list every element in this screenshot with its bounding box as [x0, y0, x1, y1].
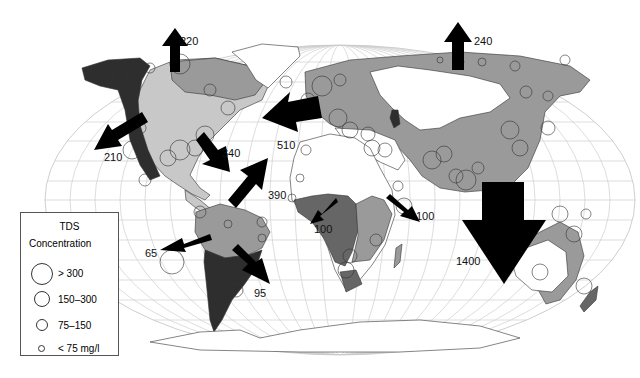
flux-label-indian-africa: 100: [416, 211, 434, 222]
flux-label-pacific-south-america: 65: [145, 248, 157, 259]
flux-label-arctic-eurasia: 240: [474, 36, 492, 47]
flux-label-gulf-of-mexico: 340: [222, 148, 240, 159]
legend-item: < 75 mg/l: [21, 339, 118, 359]
legend-subtitle: Concentration: [29, 238, 91, 249]
legend: TDS Concentration > 300 150–300 75–150 <…: [20, 212, 119, 356]
arrow-atlantic-south-america: [228, 158, 268, 208]
flux-label-atlantic-south-south-america: 95: [254, 288, 266, 299]
flux-label-atlantic-south-america: 390: [268, 190, 286, 201]
flux-label-atlantic-africa: 100: [314, 224, 332, 235]
flux-label-arctic-north-america: 220: [180, 36, 198, 47]
arrow-atlantic-europe: [262, 92, 322, 132]
flux-label-atlantic-europe: 510: [277, 140, 295, 151]
circle-large-icon: [31, 263, 53, 285]
legend-item: 150–300: [21, 289, 118, 309]
circle-medium-icon: [34, 291, 50, 307]
circle-small-icon: [36, 319, 48, 331]
circle-tiny-icon: [38, 345, 45, 352]
legend-title: TDS: [21, 221, 118, 232]
flux-label-indo-pacific-asia: 1400: [456, 256, 480, 267]
flux-label-pacific-north-america: 210: [104, 152, 122, 163]
antarctica: [150, 320, 520, 352]
legend-item: > 300: [21, 263, 118, 283]
legend-item: 75–150: [21, 315, 118, 335]
